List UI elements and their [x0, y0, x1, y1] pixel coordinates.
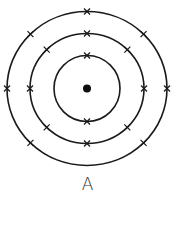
electrons	[4, 9, 170, 147]
nucleus	[83, 85, 91, 93]
diagram-label: A	[0, 174, 175, 194]
electron-cross-icon	[44, 124, 50, 130]
electron-cross-icon	[141, 31, 147, 37]
bohr-model-diagram	[0, 0, 183, 229]
electron-cross-icon	[27, 140, 33, 146]
electron-cross-icon	[27, 31, 33, 37]
electron-cross-icon	[124, 124, 130, 130]
electron-cross-icon	[44, 47, 50, 53]
electron-cross-icon	[141, 140, 147, 146]
electron-cross-icon	[124, 47, 130, 53]
